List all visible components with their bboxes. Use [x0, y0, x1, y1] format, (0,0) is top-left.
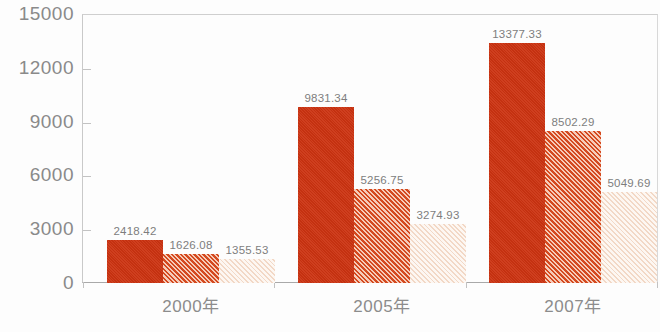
bar	[545, 131, 601, 283]
bar	[354, 189, 410, 283]
y-tick-label: 15000	[2, 3, 74, 25]
plot-area: 2418.421626.081355.539831.345256.753274.…	[83, 14, 657, 283]
bar	[601, 192, 657, 283]
bar	[410, 224, 466, 283]
bar-group	[489, 14, 657, 283]
bar-group	[298, 14, 466, 283]
x-category-label: 2000年	[162, 292, 219, 317]
bar	[163, 254, 219, 283]
y-tick-label: 6000	[2, 164, 74, 186]
y-axis-labels: 03000600090001200015000	[0, 0, 74, 332]
bar	[219, 259, 275, 283]
y-tick-label: 3000	[2, 218, 74, 240]
x-category-label: 2007年	[544, 292, 601, 317]
y-tick-label: 9000	[2, 111, 74, 133]
y-tick-label: 12000	[2, 57, 74, 79]
x-axis-labels: 2000年2005年2007年	[83, 292, 657, 326]
bar	[298, 107, 354, 283]
x-category-label: 2005年	[353, 292, 410, 317]
bar-chart: 03000600090001200015000 2418.421626.0813…	[0, 0, 660, 332]
bar-group	[107, 14, 275, 283]
x-tick-mark	[657, 282, 658, 288]
bar	[107, 240, 163, 283]
y-tick-label: 0	[2, 272, 74, 294]
bar	[489, 43, 545, 283]
